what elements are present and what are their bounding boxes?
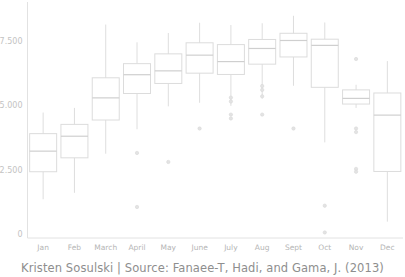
box-plot-series-feb — [61, 108, 88, 193]
box-plot-series-june — [186, 23, 213, 130]
box-plot-series-july — [217, 25, 244, 120]
box-rect — [374, 93, 401, 171]
chart-caption: Kristen Sosulski | Source: Fanaee-T, Had… — [0, 261, 405, 275]
box-rect — [343, 90, 370, 104]
outlier-point — [229, 113, 232, 116]
x-axis-tick-label: Aug — [255, 243, 270, 252]
outlier-point — [229, 117, 232, 120]
x-axis-tick-label: Feb — [68, 243, 82, 252]
outlier-point — [229, 100, 232, 103]
box-plot-series-aug — [249, 23, 276, 116]
x-axis-tick-label: Dec — [380, 243, 395, 252]
x-axis-tick-label: Jan — [36, 243, 49, 252]
box-plot-series-oct — [311, 22, 338, 234]
x-axis-tick-label: March — [94, 243, 117, 252]
y-axis-tick-label: 7.500 — [0, 37, 23, 46]
y-axis-tick-label: 5.000 — [0, 101, 23, 110]
outlier-point — [260, 95, 263, 98]
x-axis-tick-label: April — [128, 243, 145, 252]
box-rect — [280, 33, 307, 57]
outlier-point — [354, 127, 357, 130]
box-rect — [61, 124, 88, 157]
outlier-point — [260, 84, 263, 87]
box-rect — [124, 64, 151, 94]
box-rect — [249, 39, 276, 64]
outlier-point — [292, 127, 295, 130]
box-rect — [155, 54, 182, 84]
box-rect — [186, 43, 213, 73]
box-plot-chart: 7.5005.0002.5000JanFebMarchAprilMayJuneJ… — [0, 0, 405, 277]
y-axis-tick-label: 0 — [17, 230, 22, 239]
box-rect — [92, 78, 119, 120]
outlier-point — [354, 130, 357, 133]
outlier-point — [323, 204, 326, 207]
box-plot-series-jan — [30, 113, 57, 200]
box-plot-series-march — [92, 25, 119, 154]
outlier-point — [260, 88, 263, 91]
x-axis-tick-label: Oct — [318, 243, 331, 252]
outlier-point — [229, 96, 232, 99]
x-axis-tick-label: Nov — [349, 243, 364, 252]
box-plot-series-april — [124, 42, 151, 208]
box-rect — [311, 39, 338, 87]
x-axis-tick-label: May — [161, 243, 177, 252]
x-axis-tick-label: July — [223, 243, 238, 252]
outlier-point — [323, 231, 326, 234]
outlier-point — [354, 57, 357, 60]
chart-plot-area: 7.5005.0002.5000JanFebMarchAprilMayJuneJ… — [0, 0, 405, 277]
box-rect — [217, 45, 244, 75]
box-rect — [30, 134, 57, 172]
y-axis-tick-label: 2.500 — [0, 166, 23, 175]
outlier-point — [354, 170, 357, 173]
outlier-point — [198, 127, 201, 130]
outlier-point — [135, 205, 138, 208]
outlier-point — [167, 160, 170, 163]
outlier-point — [260, 113, 263, 116]
box-plot-series-sept — [280, 16, 307, 130]
outlier-point — [135, 151, 138, 154]
x-axis-tick-label: Sept — [285, 243, 302, 252]
box-plot-series-nov — [343, 57, 370, 173]
box-plot-series-dec — [374, 61, 401, 222]
x-axis-tick-label: June — [190, 243, 208, 252]
box-plot-series-may — [155, 33, 182, 164]
